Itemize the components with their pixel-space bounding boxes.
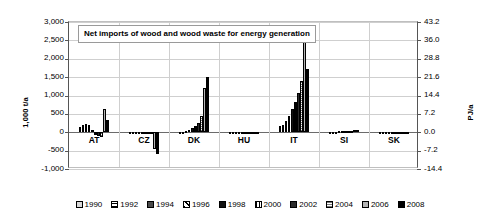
x-axis-category-label: DK (169, 135, 219, 145)
category-group-hu: HU (219, 22, 269, 167)
category-group-it: IT (269, 22, 319, 167)
y-axis-left-tick-label: -500 (24, 145, 64, 154)
category-group-si: SI (319, 22, 369, 167)
legend-label: 2006 (371, 200, 389, 209)
legend-item-2000[interactable]: 2000 (255, 200, 282, 209)
y-axis-right-tick-label: 14.4 (424, 90, 460, 99)
legend-swatch-icon (219, 201, 226, 208)
legend-swatch-icon (326, 201, 333, 208)
x-axis-category-label: IT (269, 135, 319, 145)
legend-item-1996[interactable]: 1996 (183, 200, 210, 209)
y-axis-right-tick-label: 36.0 (424, 35, 460, 44)
y-axis-left-tick-label: 2,500 (24, 35, 64, 44)
legend-item-2002[interactable]: 2002 (290, 200, 317, 209)
legend-label: 1998 (228, 200, 246, 209)
category-group-sk: SK (369, 22, 419, 167)
legend-swatch-icon (111, 201, 118, 208)
y-axis-left-tick-label: 3,000 (24, 17, 64, 26)
legend-item-2004[interactable]: 2004 (326, 200, 353, 209)
x-axis-category-label: CZ (119, 135, 169, 145)
y-axis-right-tick-label: -14.4 (424, 164, 460, 173)
legend-swatch-icon (76, 201, 83, 208)
y-axis-right-tick-label: 7.2 (424, 108, 460, 117)
legend-item-1998[interactable]: 1998 (219, 200, 246, 209)
legend-label: 2002 (299, 200, 317, 209)
x-axis-category-label: HU (219, 135, 269, 145)
legend-item-1994[interactable]: 1994 (147, 200, 174, 209)
bar-hu-2008 (256, 132, 259, 134)
y-axis-right-tick-label: 0.0 (424, 127, 460, 136)
bar-dk-2008 (206, 77, 209, 132)
legend-swatch-icon (147, 201, 154, 208)
x-axis-category-label: SK (369, 135, 419, 145)
y-axis-left-tick-label: 1,500 (24, 72, 64, 81)
bar-it-2008 (306, 69, 309, 132)
legend-label: 1992 (120, 200, 138, 209)
axis-tick-mark (417, 169, 421, 170)
legend-item-1992[interactable]: 1992 (111, 200, 138, 209)
y-axis-left-tick-label: -1,000 (24, 164, 64, 173)
legend-swatch-icon (290, 201, 297, 208)
y-axis-right-tick-label: 21.6 (424, 72, 460, 81)
y-axis-left-tick-label: 1,000 (24, 90, 64, 99)
legend-label: 2004 (335, 200, 353, 209)
category-group-cz: CZ (119, 22, 169, 167)
axis-tick-mark (65, 169, 69, 170)
legend-label: 2008 (407, 200, 425, 209)
y-axis-left-tick-label: 500 (24, 108, 64, 117)
legend-swatch-icon (255, 201, 262, 208)
legend-label: 2000 (264, 200, 282, 209)
chart-container: 1,000 t/a PJ/a 3,0002,5002,0001,5001,000… (0, 0, 491, 221)
chart-title-box: Net imports of wood and wood waste for e… (78, 25, 316, 43)
y-axis-right-tick-label: 28.8 (424, 53, 460, 62)
bar-at-2008 (106, 120, 109, 132)
category-group-at: AT (69, 22, 119, 167)
gridline (69, 169, 417, 170)
chart-legend: 1990199219941996199820002002200420062008 (60, 200, 440, 209)
legend-label: 1994 (156, 200, 174, 209)
legend-swatch-icon (362, 201, 369, 208)
y-axis-right-tick-label: 43.2 (424, 17, 460, 26)
bar-sk-2008 (406, 132, 409, 134)
legend-item-2006[interactable]: 2006 (362, 200, 389, 209)
x-axis-category-label: AT (69, 135, 119, 145)
y-axis-right-title: PJ/a (466, 83, 475, 143)
legend-label: 1996 (192, 200, 210, 209)
legend-item-2008[interactable]: 2008 (398, 200, 425, 209)
legend-item-1990[interactable]: 1990 (76, 200, 103, 209)
y-axis-left-tick-label: 2,000 (24, 53, 64, 62)
legend-swatch-icon (398, 201, 405, 208)
x-axis-category-label: SI (319, 135, 369, 145)
y-axis-left-tick-label: 0 (24, 127, 64, 136)
legend-label: 1990 (85, 200, 103, 209)
y-axis-right-tick-label: -7.2 (424, 145, 460, 154)
plot-area: ATCZDKHUITSISK (68, 21, 418, 168)
category-group-dk: DK (169, 22, 219, 167)
bar-si-2008 (356, 130, 359, 132)
legend-swatch-icon (183, 201, 190, 208)
